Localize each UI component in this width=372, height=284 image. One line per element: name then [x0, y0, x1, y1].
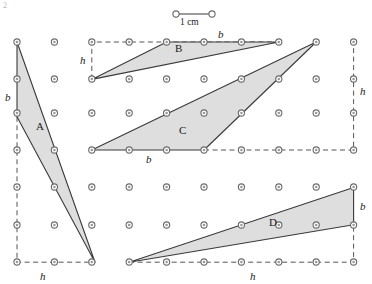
shape-label-c: C [179, 125, 186, 136]
grid-dot-core [278, 149, 281, 152]
grid-dot-core [203, 112, 206, 115]
grid-dot-core [165, 186, 168, 189]
grid-dot-core [352, 41, 355, 44]
grid-dot-core [128, 186, 131, 189]
grid-dot-core [352, 112, 355, 115]
grid-dot-core [16, 41, 19, 44]
grid-dot-core [240, 149, 243, 152]
grid-dot-core [240, 186, 243, 189]
figure-canvas [0, 0, 372, 284]
grid-dot-core [91, 78, 94, 81]
grid-dot-core [352, 261, 355, 264]
grid-dot-core [315, 261, 318, 264]
grid-dot-core [240, 112, 243, 115]
grid-dot-core [53, 224, 56, 227]
grid-dot-core [16, 224, 19, 227]
height-label-a: h [40, 271, 46, 282]
grid-dot-core [278, 112, 281, 115]
geometry-figure: 2 1 cm A B C D b b b b h h [0, 0, 372, 284]
grid-dot-core [278, 186, 281, 189]
grid-dot-core [315, 224, 318, 227]
grid-dot-core [315, 41, 318, 44]
grid-dot-core [315, 149, 318, 152]
height-label-d: h [250, 271, 256, 282]
grid-dot-core [203, 149, 206, 152]
grid-dot-core [128, 41, 131, 44]
grid-dot-core [203, 78, 206, 81]
shape-label-b: B [175, 43, 182, 54]
grid-dot-core [128, 224, 131, 227]
shape-label-d: D [269, 217, 277, 228]
grid-dot-core [352, 78, 355, 81]
grid-dot-core [91, 261, 94, 264]
grid-dot-core [91, 41, 94, 44]
grid-dot-core [128, 78, 131, 81]
scale-bar-label: 1 cm [180, 18, 199, 28]
grid-dot-core [278, 41, 281, 44]
triangle-c [92, 42, 316, 150]
shape-label-a: A [36, 121, 44, 132]
grid-dot-core [53, 261, 56, 264]
height-label-b: h [80, 55, 86, 66]
base-label-d: b [360, 201, 366, 212]
grid-dot-core [203, 41, 206, 44]
grid-dot-core [53, 112, 56, 115]
grid-dot-core [315, 78, 318, 81]
grid-dot-core [16, 149, 19, 152]
grid-dot-core [165, 112, 168, 115]
grid-dot-core [315, 112, 318, 115]
height-label-c: h [360, 86, 366, 97]
grid-dot-core [352, 149, 355, 152]
grid-dot-core [91, 186, 94, 189]
grid-dot-core [315, 186, 318, 189]
grid-dot-core [53, 78, 56, 81]
grid-dot-core [203, 224, 206, 227]
grid-dot-core [165, 224, 168, 227]
grid-dot-core [352, 186, 355, 189]
grid-dot-core [16, 186, 19, 189]
grid-dot-core [240, 261, 243, 264]
grid-dot-core [53, 149, 56, 152]
base-label-b: b [218, 29, 224, 40]
grid-dot-core [240, 78, 243, 81]
grid-dot-core [165, 41, 168, 44]
grid-dot-core [16, 112, 19, 115]
grid-dot-core [278, 78, 281, 81]
grid-dot-core [53, 41, 56, 44]
grid-dot-core [91, 149, 94, 152]
grid-dot-core [128, 149, 131, 152]
grid-dot-core [16, 78, 19, 81]
grid-dot-core [278, 224, 281, 227]
base-label-a: b [5, 92, 11, 103]
grid-dot-core [203, 261, 206, 264]
grid-dot-core [352, 224, 355, 227]
grid-dot-core [53, 186, 56, 189]
grid-dot-core [240, 224, 243, 227]
grid-dot-core [16, 261, 19, 264]
grid-dot-core [91, 112, 94, 115]
grid-dot-core [128, 112, 131, 115]
grid-dot-core [203, 186, 206, 189]
grid-dot-core [165, 78, 168, 81]
grid-dot-core [278, 261, 281, 264]
grid-dot-core [165, 149, 168, 152]
scale-bar-endpoint-right [209, 11, 215, 17]
base-label-c: b [146, 154, 152, 165]
grid-dot-core [91, 224, 94, 227]
scale-bar-endpoint-left [173, 11, 179, 17]
shaded-triangles [17, 42, 354, 262]
grid-dot-core [240, 41, 243, 44]
grid-dot-core [165, 261, 168, 264]
grid-dot-core [128, 261, 131, 264]
